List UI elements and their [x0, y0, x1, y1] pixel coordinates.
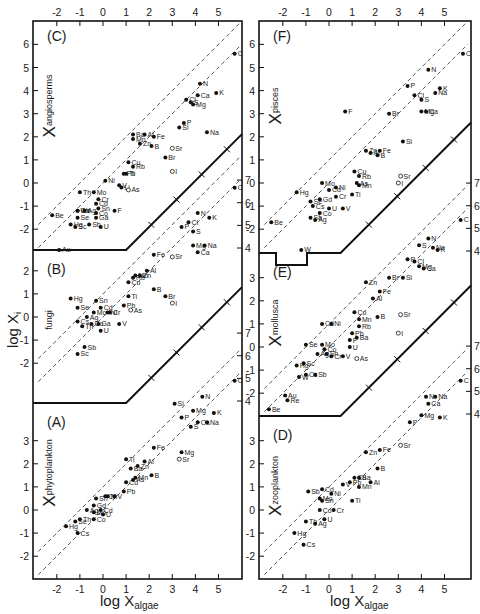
data-point: C	[233, 50, 243, 57]
data-point: Br	[163, 154, 176, 161]
y-tick: 3	[249, 108, 255, 120]
x-tick-top: 2	[146, 6, 152, 18]
svg-text:C: C	[466, 50, 471, 57]
panel-label: (B)	[47, 261, 66, 277]
svg-text:V: V	[118, 493, 123, 500]
data-points: -2-10123456(C)XangiospermsCNCaKClSMgSiPN…	[20, 21, 471, 574]
data-point: Th	[78, 189, 91, 196]
svg-text:N: N	[203, 80, 208, 87]
panel-label: (E)	[273, 264, 292, 280]
svg-text:Sb: Sb	[318, 371, 327, 378]
svg-text:Cs: Cs	[81, 530, 90, 537]
data-point: N	[196, 210, 206, 217]
data-point: B	[152, 286, 162, 293]
data-point: C	[459, 377, 469, 384]
x-tick-top: 4	[192, 6, 198, 18]
data-point: Mg	[191, 407, 206, 415]
svg-text:Sc: Sc	[78, 223, 87, 230]
svg-text:Zn: Zn	[369, 279, 377, 286]
x-tick-top: -2	[278, 6, 287, 18]
scatter-figure: -2-10123456(C)XangiospermsCNCaKClSMgSiPN…	[0, 0, 480, 614]
y-tick: 1	[249, 154, 255, 166]
panel-ylabel: Xpisces	[266, 87, 285, 124]
panel-F: -2-10123456(F)XpiscesCNPKClSNaMgCaFBrSiZ…	[246, 21, 471, 253]
data-point: Co	[318, 507, 332, 514]
data-point: Fe	[152, 251, 165, 258]
svg-text:B: B	[381, 465, 386, 472]
panel-ylabel: Xmollusca	[266, 300, 285, 347]
svg-text:Ti: Ti	[355, 191, 361, 198]
data-point: Ca	[196, 249, 210, 256]
y-tick: 2	[23, 131, 29, 143]
data-point: I	[396, 330, 403, 337]
x-tick-bottom: 5	[442, 583, 448, 595]
data-point: P	[408, 419, 418, 426]
svg-text:Ba: Ba	[360, 334, 369, 341]
svg-text:I: I	[175, 300, 177, 307]
svg-text:As: As	[360, 355, 369, 362]
svg-text:Ti: Ti	[129, 456, 135, 463]
svg-text:W: W	[304, 246, 311, 253]
data-point: Cr	[332, 507, 345, 514]
svg-text:Sb: Sb	[311, 488, 320, 495]
svg-text:Ni: Ni	[108, 177, 115, 184]
svg-text:Be: Be	[272, 406, 281, 413]
data-point: Sr	[399, 442, 412, 449]
svg-text:Se: Se	[81, 304, 90, 311]
y-tick: 5	[23, 62, 29, 74]
svg-text:Ca: Ca	[201, 249, 210, 256]
data-point: W	[299, 246, 311, 253]
panel-boundary	[33, 287, 242, 403]
panel-label: (A)	[47, 414, 66, 430]
svg-text:Co: Co	[97, 516, 106, 523]
right-tick: 7	[245, 174, 251, 186]
data-point: Be	[269, 219, 283, 226]
svg-text:U: U	[104, 223, 109, 230]
data-point: S	[191, 228, 201, 235]
reference-line	[264, 348, 467, 551]
y-tick: 0	[249, 504, 255, 516]
svg-text:K: K	[217, 409, 222, 416]
svg-text:Sn: Sn	[325, 497, 334, 504]
panel-ylabel: Xzooplankton	[266, 456, 285, 516]
data-point: Si	[401, 138, 413, 145]
svg-text:Hg: Hg	[69, 523, 78, 531]
svg-text:Re: Re	[290, 397, 299, 404]
data-point: B	[376, 465, 386, 472]
data-point: Mg	[419, 412, 434, 420]
x-tick-top: -1	[301, 6, 310, 18]
svg-text:As: As	[136, 476, 145, 483]
right-tick: 4	[474, 245, 480, 257]
svg-text:V: V	[122, 320, 127, 327]
svg-text:B: B	[381, 152, 386, 159]
svg-text:Be: Be	[55, 212, 64, 219]
svg-text:Cr: Cr	[337, 507, 345, 514]
svg-text:B: B	[157, 286, 162, 293]
x-tick-bottom: 2	[372, 583, 378, 595]
data-point: S	[189, 423, 199, 430]
data-point: Sr	[170, 253, 183, 260]
svg-text:V: V	[346, 205, 351, 212]
panel-ylabel: Xangiosperms	[40, 74, 59, 137]
data-point: Hg	[292, 530, 306, 538]
data-point: Cd	[320, 486, 334, 493]
data-point: Zn	[364, 279, 377, 286]
y-tick: 3	[23, 108, 29, 120]
svg-text:Ti: Ti	[131, 293, 137, 300]
x-tick-bottom: 1	[349, 583, 355, 595]
x-tick-top: 3	[395, 6, 401, 18]
data-point: P	[180, 414, 190, 421]
y-tick: 3	[249, 435, 255, 447]
data-point: Na	[433, 89, 447, 96]
svg-text:Co: Co	[323, 507, 332, 514]
data-point: N	[426, 235, 436, 242]
plot-frame-right	[259, 21, 471, 579]
svg-text:Mn: Mn	[362, 182, 372, 189]
svg-text:Ca: Ca	[431, 400, 440, 407]
data-point: V	[341, 481, 351, 488]
y-tick: -1	[246, 527, 255, 539]
data-point: Hg	[295, 189, 309, 197]
svg-text:P: P	[187, 119, 192, 126]
data-point: S	[417, 242, 427, 249]
svg-text:Sr: Sr	[182, 456, 190, 463]
